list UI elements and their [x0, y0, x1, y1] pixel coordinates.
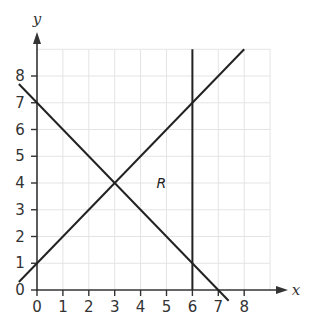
- plot-line: [19, 49, 244, 282]
- y-tick-label: 0: [15, 281, 25, 299]
- x-tick-label: 3: [110, 298, 120, 316]
- x-tick-label: 0: [32, 298, 42, 316]
- grid: [37, 49, 270, 290]
- x-axis-arrow-icon: [276, 286, 288, 294]
- x-axis-label: x: [292, 281, 301, 299]
- x-tick-label: 2: [84, 298, 94, 316]
- plot-line: [19, 84, 229, 301]
- x-tick-label: 1: [58, 298, 68, 316]
- axes: [31, 32, 288, 296]
- y-tick-label: 8: [15, 67, 25, 85]
- y-axis-arrow-icon: [33, 32, 41, 44]
- y-tick-label: 3: [15, 201, 25, 219]
- y-tick-label: 1: [15, 254, 25, 272]
- y-tick-label: 7: [15, 94, 25, 112]
- y-tick-label: 4: [15, 174, 25, 192]
- y-tick-label: 2: [15, 228, 25, 246]
- region-label: R: [156, 175, 166, 191]
- x-tick-label: 7: [214, 298, 224, 316]
- y-axis-label: y: [32, 10, 42, 28]
- y-tick-label: 5: [15, 147, 25, 165]
- x-tick-label: 4: [136, 298, 146, 316]
- y-tick-label: 6: [15, 121, 25, 139]
- x-tick-label: 5: [162, 298, 172, 316]
- coordinate-graph: 012345678012345678xyR: [0, 0, 312, 330]
- labels: 012345678012345678xyR: [15, 10, 301, 316]
- x-tick-label: 8: [239, 298, 249, 316]
- x-tick-label: 6: [188, 298, 198, 316]
